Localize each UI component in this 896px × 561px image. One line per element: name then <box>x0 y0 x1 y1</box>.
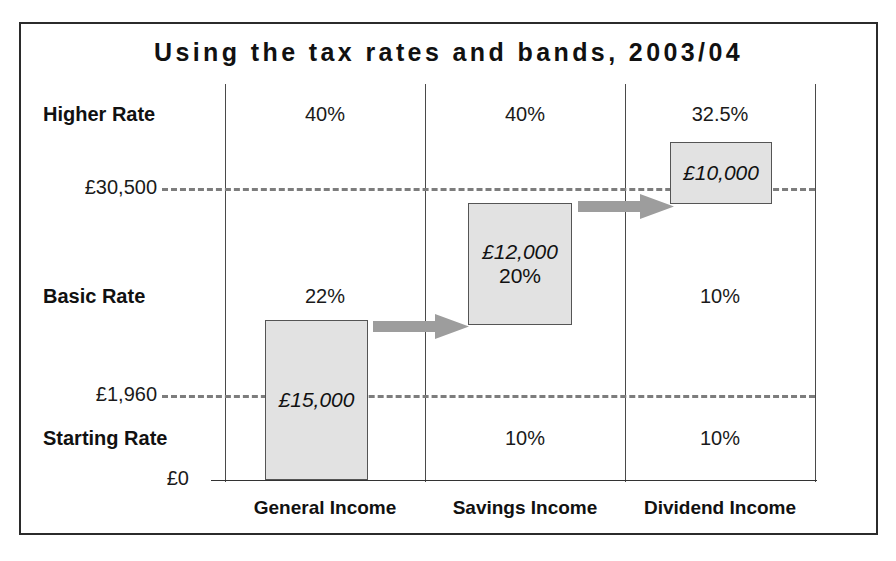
income-block-general: £15,000 <box>265 320 368 480</box>
flow-arrow-general-to-savings <box>373 312 469 342</box>
axis-tick-1960: £1,960 <box>21 383 157 406</box>
column-header-general-income: General Income <box>225 497 425 519</box>
rate-starting-savings: 10% <box>425 427 625 450</box>
rate-higher-general: 40% <box>225 103 425 126</box>
income-block-savings: £12,000 20% <box>468 203 572 325</box>
column-divider-3 <box>625 84 626 482</box>
column-header-dividend-income: Dividend Income <box>621 497 819 519</box>
income-block-dividend-amount: £10,000 <box>683 161 759 185</box>
rate-higher-dividend: 32.5% <box>625 103 815 126</box>
rate-starting-dividend: 10% <box>625 427 815 450</box>
axis-tick-0: £0 <box>21 467 189 490</box>
column-divider-4 <box>815 84 816 482</box>
band-label-starting-rate: Starting Rate <box>43 427 167 450</box>
column-divider-1 <box>225 84 226 482</box>
threshold-line-1960 <box>162 395 815 398</box>
band-label-basic-rate: Basic Rate <box>43 285 145 308</box>
baseline-axis <box>211 480 817 481</box>
income-block-savings-amount: £12,000 <box>482 240 558 264</box>
column-header-savings-income: Savings Income <box>425 497 625 519</box>
income-block-dividend: £10,000 <box>670 142 772 204</box>
column-divider-2 <box>425 84 426 482</box>
rate-higher-savings: 40% <box>425 103 625 126</box>
axis-tick-30500: £30,500 <box>21 176 157 199</box>
chart-title: Using the tax rates and bands, 2003/04 <box>21 38 876 67</box>
chart-frame: Using the tax rates and bands, 2003/04 £… <box>19 22 878 535</box>
rate-basic-general: 22% <box>225 285 425 308</box>
income-block-savings-rate: 20% <box>499 264 541 288</box>
income-block-general-amount: £15,000 <box>279 388 355 412</box>
band-label-higher-rate: Higher Rate <box>43 103 155 126</box>
flow-arrow-savings-to-dividend <box>578 192 674 222</box>
rate-basic-dividend: 10% <box>625 285 815 308</box>
